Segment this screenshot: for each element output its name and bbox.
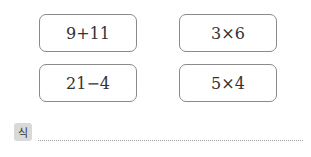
expression-text: 21−4 [66,74,110,93]
expression-text: 5×4 [211,74,245,93]
expression-text: 3×6 [211,24,245,43]
expression-card-1[interactable]: 9+11 [39,14,137,52]
expression-card-2[interactable]: 3×6 [179,14,277,52]
expression-card-3[interactable]: 21−4 [39,64,137,102]
expression-text: 9+11 [66,24,110,43]
formula-label: 식 [14,123,32,141]
answer-line[interactable] [38,140,303,141]
expression-card-4[interactable]: 5×4 [179,64,277,102]
